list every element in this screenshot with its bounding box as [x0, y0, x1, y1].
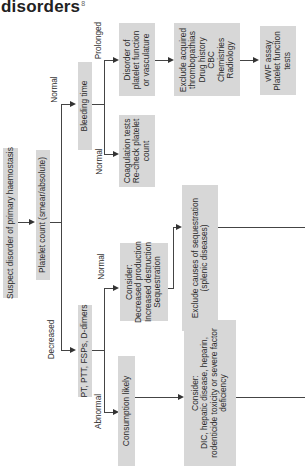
connector: [155, 60, 169, 61]
connector: [236, 397, 305, 398]
connector: [61, 104, 62, 351]
connector: [240, 60, 254, 61]
connector: [135, 397, 179, 398]
text-line: Radiology: [226, 27, 235, 91]
node-exclude-sequestration-label: Exclude causes of sequestration (splenic…: [191, 198, 210, 319]
arrow-icon: [113, 285, 119, 291]
page-title: disorders8: [1, 0, 85, 17]
node-exclude-sequestration: Exclude causes of sequestration (splenic…: [182, 185, 218, 331]
node-consider-decreased-label: Consider: Decreased production Increased…: [125, 241, 163, 323]
node-exclude-acquired: Exclude acquired thrombopathias Drug his…: [174, 23, 240, 96]
node-suspect: Suspect disorder of primary haemostasis: [3, 148, 18, 298]
node-exclude-acquired-label: Exclude acquired thrombopathias Drug his…: [179, 27, 235, 91]
edge-label-prolonged: Prolonged: [94, 22, 103, 59]
title-text: disorders: [1, 0, 80, 16]
arrow-icon: [70, 101, 76, 107]
arrow-icon: [29, 219, 35, 225]
node-disorder-platelet: Disorder of platelet function or vascula…: [119, 23, 155, 96]
edge-label-normal-pt: Normal: [97, 253, 106, 279]
node-coag-tests-label: Coagulation tests Re-check platelet coun…: [123, 119, 151, 184]
edge-label-normal-bleeding: Normal: [95, 148, 104, 174]
connector: [92, 104, 104, 105]
node-bleeding-time: Bleeding time: [78, 62, 92, 150]
node-coag-tests: Coagulation tests Re-check platelet coun…: [119, 115, 155, 187]
node-consumption-label: Consumption likely: [122, 376, 131, 446]
node-pt-ptt-label: PT, PTT, FSPs, D-dimers: [80, 304, 89, 397]
edge-label-abnormal: Abnormal: [94, 394, 103, 429]
node-vwf: vWF assay Platelet function tests: [260, 26, 296, 95]
node-disorder-platelet-label: Disorder of platelet function or vascula…: [123, 30, 151, 89]
text-line: Sequestration: [153, 241, 162, 323]
node-consider-dic-label: Consider: DIC, hepatic disease, heparin,…: [191, 328, 229, 457]
node-pt-ptt: PT, PTT, FSPs, D-dimers: [78, 305, 92, 397]
text-line: or vasculature: [142, 30, 151, 89]
node-consumption: Consumption likely: [118, 356, 135, 466]
arrow-icon: [70, 347, 76, 353]
footnote-marker: 8: [81, 0, 85, 7]
arrow-icon: [253, 57, 259, 63]
edge-label-normal: Normal: [50, 76, 59, 102]
node-suspect-label: Suspect disorder of primary haemostasis: [6, 147, 15, 299]
connector: [218, 227, 305, 228]
text-line: deficiency: [219, 328, 228, 457]
connector: [173, 227, 174, 289]
node-consider-dic: Consider: DIC, hepatic disease, heparin,…: [184, 320, 236, 466]
text-line: count: [142, 119, 151, 184]
node-vwf-label: vWF assay Platelet function tests: [264, 31, 292, 91]
connector: [104, 288, 105, 413]
connector: [104, 60, 105, 155]
node-platelet-count: Platelet count (smear/absolute): [36, 150, 50, 280]
node-platelet-count-label: Platelet count (smear/absolute): [38, 157, 47, 273]
edge-label-decreased: Decreased: [47, 320, 56, 360]
text-line: (splenic diseases): [200, 198, 209, 319]
node-consider-decreased: Consider: Decreased production Increased…: [120, 243, 168, 321]
connector: [92, 350, 104, 351]
node-bleeding-time-label: Bleeding time: [80, 81, 89, 132]
text-line: tests: [283, 31, 292, 91]
